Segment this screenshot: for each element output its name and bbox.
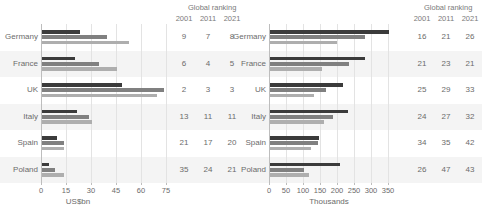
ranking-value: 43 xyxy=(459,165,481,174)
ranking-year-header: 2001 xyxy=(411,14,433,23)
bar xyxy=(270,67,322,71)
right-axis-title: Thousands xyxy=(289,197,369,206)
category-label: Spain xyxy=(18,138,38,147)
ranking-value: 4 xyxy=(197,59,219,68)
category-label: Poland xyxy=(13,165,38,174)
value-axis-line xyxy=(41,24,42,183)
category-label: Italy xyxy=(23,112,38,121)
right-chart-panel: Global ranking Germany162126France212321… xyxy=(241,0,482,217)
category-label: Spain xyxy=(246,138,266,147)
gridline xyxy=(141,24,142,183)
bar xyxy=(270,110,348,114)
ranking-year-header: 2021 xyxy=(459,14,481,23)
ranking-value: 26 xyxy=(411,165,433,174)
ranking-value: 9 xyxy=(173,32,195,41)
ranking-year-header: 2011 xyxy=(435,14,457,23)
axis-tick-mark xyxy=(388,183,389,185)
bar xyxy=(270,141,318,145)
ranking-year-header: 2011 xyxy=(197,14,219,23)
ranking-value: 42 xyxy=(459,138,481,147)
bar xyxy=(270,136,319,140)
bar xyxy=(42,163,49,167)
ranking-year-header: 2021 xyxy=(221,14,243,23)
value-axis-line xyxy=(269,24,270,183)
category-label: UK xyxy=(255,85,266,94)
category-label: UK xyxy=(27,85,38,94)
bar xyxy=(42,173,64,177)
ranking-value: 29 xyxy=(435,85,457,94)
ranking-year-header: 2001 xyxy=(173,14,195,23)
ranking-value: 25 xyxy=(411,85,433,94)
gridline xyxy=(286,24,287,183)
ranking-value: 35 xyxy=(435,138,457,147)
axis-tick-label: 45 xyxy=(104,186,128,195)
bar xyxy=(42,136,57,140)
category-label: France xyxy=(241,59,266,68)
bar xyxy=(42,141,64,145)
ranking-value: 3 xyxy=(221,85,243,94)
bar xyxy=(270,120,324,124)
axis-tick-label: 0 xyxy=(29,186,53,195)
axis-tick-mark xyxy=(41,183,42,185)
chart-page: Global ranking Germany978France645UK233I… xyxy=(0,0,482,217)
ranking-value: 35 xyxy=(173,165,195,174)
ranking-value: 21 xyxy=(459,59,481,68)
category-label: Germany xyxy=(5,32,38,41)
bar xyxy=(42,88,164,92)
bar xyxy=(42,147,64,151)
left-plot-area: Germany978France645UK233Italy131111Spain… xyxy=(0,0,241,217)
axis-tick-mark xyxy=(166,183,167,185)
axis-tick-mark xyxy=(303,183,304,185)
bar xyxy=(42,67,117,71)
bar xyxy=(42,41,129,45)
ranking-value: 13 xyxy=(173,112,195,121)
axis-tick-mark xyxy=(269,183,270,185)
ranking-value: 7 xyxy=(197,32,219,41)
left-axis-title: US$bn xyxy=(38,197,118,206)
ranking-value: 27 xyxy=(435,112,457,121)
ranking-value: 24 xyxy=(411,112,433,121)
bar xyxy=(42,62,99,66)
ranking-value: 11 xyxy=(197,112,219,121)
bar xyxy=(270,30,389,34)
gridline xyxy=(337,24,338,183)
bar xyxy=(270,173,309,177)
bar xyxy=(42,30,80,34)
axis-tick-label: 75 xyxy=(154,186,178,195)
axis-tick-label: 15 xyxy=(54,186,78,195)
axis-tick-mark xyxy=(371,183,372,185)
bar xyxy=(42,120,92,124)
bar xyxy=(42,115,89,119)
bar xyxy=(270,115,333,119)
bar xyxy=(42,168,55,172)
bar xyxy=(270,168,304,172)
axis-tick-label: 350 xyxy=(376,186,400,195)
bar xyxy=(270,147,311,151)
axis-tick-mark xyxy=(320,183,321,185)
gridline xyxy=(66,24,67,183)
ranking-value: 24 xyxy=(197,165,219,174)
left-chart-panel: Global ranking Germany978France645UK233I… xyxy=(0,0,241,217)
ranking-value: 3 xyxy=(197,85,219,94)
axis-tick-mark xyxy=(116,183,117,185)
category-label: Germany xyxy=(233,32,266,41)
ranking-value: 21 xyxy=(435,32,457,41)
category-label: Italy xyxy=(251,112,266,121)
ranking-value: 2 xyxy=(173,85,195,94)
gridline xyxy=(371,24,372,183)
bar xyxy=(270,163,340,167)
bar xyxy=(42,57,75,61)
axis-tick-label: 60 xyxy=(129,186,153,195)
ranking-value: 17 xyxy=(197,138,219,147)
bar xyxy=(42,35,107,39)
gridline xyxy=(320,24,321,183)
axis-tick-mark xyxy=(141,183,142,185)
ranking-value: 20 xyxy=(221,138,243,147)
bar xyxy=(270,83,343,87)
bar xyxy=(270,57,365,61)
ranking-value: 34 xyxy=(411,138,433,147)
ranking-value: 47 xyxy=(435,165,457,174)
bar xyxy=(270,88,326,92)
ranking-value: 16 xyxy=(411,32,433,41)
bar xyxy=(42,83,122,87)
